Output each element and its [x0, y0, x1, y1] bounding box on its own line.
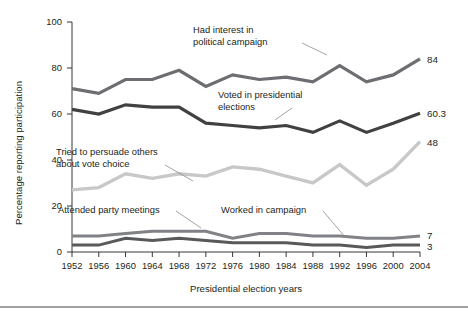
- y-axis-title: Percentage reporting participation: [13, 81, 24, 225]
- leader-had-interest: [302, 43, 327, 55]
- x-tick-label-1976: 1976: [222, 260, 243, 271]
- x-tick-label-1956: 1956: [88, 260, 109, 271]
- series-end-labels: 8460.34873: [427, 54, 447, 252]
- x-tick-label-1992: 1992: [329, 260, 350, 271]
- leader-worked: [323, 211, 345, 237]
- annotation-attended-line1: Attended party meetings: [58, 204, 160, 215]
- y-tick-label-60: 60: [52, 108, 62, 119]
- end-label-worked-in-campaign: 3: [427, 241, 433, 252]
- annotation-had-interest-line2: political campaign: [193, 36, 268, 47]
- x-tick-label-2000: 2000: [383, 260, 404, 271]
- x-tick-label-1968: 1968: [169, 260, 190, 271]
- end-label-had-interest-in-political-campaign: 84: [427, 54, 438, 65]
- y-tick-label-0: 0: [57, 246, 62, 257]
- x-tick-label-1952: 1952: [62, 260, 83, 271]
- annotation-worked-line1: Worked in campaign: [221, 204, 306, 215]
- annotation-persuade-line2: about vote choice: [56, 158, 130, 169]
- end-label-voted-in-presidential-elections: 60.3: [427, 108, 447, 119]
- x-tick-label-1964: 1964: [142, 260, 163, 271]
- y-tick-label-80: 80: [52, 62, 62, 73]
- y-tick-label-100: 100: [46, 16, 62, 27]
- line-chart: Percentage reporting participation 100 8…: [0, 0, 468, 313]
- x-tick-label-1980: 1980: [249, 260, 270, 271]
- x-axis-title: Presidential election years: [190, 283, 302, 294]
- annotation-voted-line1: Voted in presidential: [218, 89, 302, 100]
- annotation-persuade-line1: Tried to persuade others: [56, 146, 158, 157]
- x-tick-label-2004: 2004: [410, 260, 431, 271]
- leader-attended: [176, 211, 201, 228]
- end-label-tried-to-persuade-others-about-vote-choice: 48: [427, 137, 438, 148]
- annotation-had-interest-line1: Had interest in: [193, 24, 253, 35]
- chart-figure: Percentage reporting participation 100 8…: [0, 0, 468, 313]
- leader-voted: [275, 108, 292, 120]
- x-tick-label-1988: 1988: [302, 260, 323, 271]
- x-tick-label-1960: 1960: [115, 260, 136, 271]
- x-tick-label-1984: 1984: [276, 260, 297, 271]
- x-axis-ticks: 1952195619601964196819721976198019841988…: [62, 252, 431, 271]
- x-tick-label-1972: 1972: [195, 260, 216, 271]
- annotation-voted-line2: elections: [218, 101, 255, 112]
- x-tick-label-1996: 1996: [356, 260, 377, 271]
